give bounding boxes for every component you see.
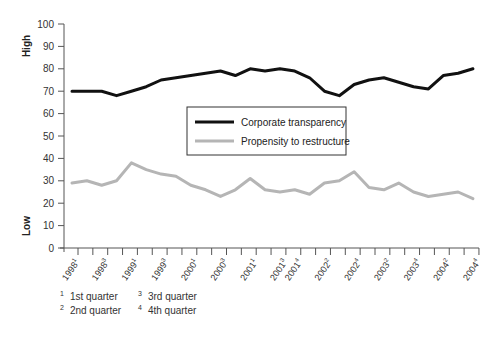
- legend-label: Corporate transparency: [241, 117, 346, 128]
- x-tick-label: 20014: [282, 256, 305, 282]
- y-tick-label: 20: [43, 198, 55, 209]
- x-tick-label: 20042: [430, 256, 453, 282]
- x-tick-label: 20044: [460, 256, 483, 282]
- series-propensity-to-restructure: [72, 163, 473, 199]
- series-corporate-transparency: [72, 69, 473, 96]
- legend-label: Propensity to restructure: [241, 136, 350, 147]
- y-tick-label: 10: [43, 220, 55, 231]
- y-tick-label: 100: [37, 19, 54, 30]
- y-label-low: Low: [21, 216, 32, 236]
- y-tick-label: 40: [43, 153, 55, 164]
- y-tick-label: 70: [43, 86, 55, 97]
- footnote-2: 22nd quarter: [60, 304, 121, 316]
- legend: Corporate transparencyPropensity to rest…: [187, 107, 350, 155]
- x-tick-label: 20034: [401, 256, 424, 282]
- y-tick-label: 80: [43, 63, 55, 74]
- footnote-3: 33rd quarter: [138, 290, 197, 302]
- x-tick-label: 19991: [119, 256, 142, 282]
- x-tick-label: 20022: [312, 256, 335, 282]
- x-tick-label: 20001: [178, 256, 201, 282]
- y-tick-label: 90: [43, 41, 55, 52]
- x-tick-label: 20032: [371, 256, 394, 282]
- x-tick-label: 19983: [89, 256, 112, 282]
- footnote-4: 44th quarter: [138, 304, 196, 316]
- line-chart: 0102030405060708090100HighLow19981199831…: [0, 0, 501, 338]
- x-tick-label: 20003: [208, 256, 231, 282]
- y-label-high: High: [21, 35, 32, 57]
- x-tick-label: 19993: [148, 256, 171, 282]
- footnote-1: 11st quarter: [60, 290, 118, 302]
- x-tick-label: 20011: [237, 256, 260, 282]
- x-tick-label: 19981: [59, 256, 82, 282]
- x-tick-label: 20024: [341, 256, 364, 282]
- y-tick-label: 0: [48, 243, 54, 254]
- y-tick-label: 50: [43, 131, 55, 142]
- y-tick-label: 60: [43, 108, 55, 119]
- y-tick-label: 30: [43, 175, 55, 186]
